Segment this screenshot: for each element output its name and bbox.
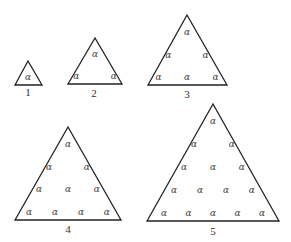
alpha-symbol: α xyxy=(203,50,209,60)
triangle-label-5: 5 xyxy=(210,225,216,237)
alpha-symbol: α xyxy=(229,139,235,149)
alpha-symbol: α xyxy=(210,162,216,172)
alpha-symbol: α xyxy=(25,72,31,82)
triangle-label-4: 4 xyxy=(65,223,71,235)
alpha-symbol: α xyxy=(212,72,218,82)
triangular-numbers-diagram: α1ααα2αααααα3αααααααααα4ααααααααααααααα5 xyxy=(0,0,291,242)
triangle-group-4: αααααααααα4 xyxy=(15,127,121,235)
alpha-symbol: α xyxy=(184,27,190,37)
alpha-symbol: α xyxy=(249,185,255,195)
alpha-symbol: α xyxy=(78,207,84,217)
alpha-symbol: α xyxy=(161,208,167,218)
alpha-symbol: α xyxy=(111,71,117,81)
alpha-symbol: α xyxy=(65,139,71,149)
alpha-symbol: α xyxy=(165,50,171,60)
alpha-symbol: α xyxy=(155,72,161,82)
alpha-symbol: α xyxy=(65,184,71,194)
alpha-symbol: α xyxy=(259,208,265,218)
alpha-symbol: α xyxy=(191,139,197,149)
alpha-symbol: α xyxy=(52,207,58,217)
alpha-symbol: α xyxy=(234,208,240,218)
triangle-label-3: 3 xyxy=(184,88,190,100)
alpha-symbol: α xyxy=(104,207,110,217)
triangle-label-2: 2 xyxy=(91,87,97,99)
triangle-label-1: 1 xyxy=(25,86,31,98)
alpha-symbol: α xyxy=(223,185,229,195)
alpha-symbol: α xyxy=(94,184,100,194)
alpha-symbol: α xyxy=(185,208,191,218)
alpha-symbol: α xyxy=(210,116,216,126)
alpha-symbol: α xyxy=(73,71,79,81)
alpha-symbol: α xyxy=(26,207,32,217)
alpha-symbol: α xyxy=(84,162,90,172)
triangle-group-5: ααααααααααααααα5 xyxy=(147,104,279,237)
alpha-symbol: α xyxy=(239,162,245,172)
alpha-symbol: α xyxy=(46,162,52,172)
triangle-group-1: α1 xyxy=(15,61,42,98)
alpha-symbol: α xyxy=(210,208,216,218)
alpha-symbol: α xyxy=(171,185,177,195)
triangle-group-2: ααα2 xyxy=(68,38,122,99)
alpha-symbol: α xyxy=(36,184,42,194)
alpha-symbol: α xyxy=(184,72,190,82)
alpha-symbol: α xyxy=(92,49,98,59)
triangle-group-3: αααααα3 xyxy=(148,15,227,100)
alpha-symbol: α xyxy=(181,162,187,172)
alpha-symbol: α xyxy=(197,185,203,195)
